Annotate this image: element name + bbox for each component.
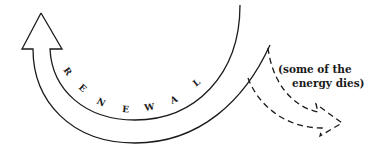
renewal-arrow-outline (22, 13, 270, 143)
letter-r: R (61, 65, 74, 77)
renewal-diagram: R E N E W A L (some of the energy dies) (0, 0, 373, 151)
renewal-arrow-head-right (41, 5, 240, 120)
letter-e1: E (77, 82, 89, 94)
renewal-label: R E N E W A L (61, 65, 202, 114)
annotation-line-2: energy dies) (292, 77, 365, 89)
annotation-line-1: (some of the (278, 63, 352, 75)
letter-n: N (95, 96, 107, 109)
letter-a: A (168, 93, 180, 106)
letter-e2: E (122, 104, 130, 115)
letter-l: L (191, 76, 203, 88)
letter-w: W (143, 101, 157, 113)
